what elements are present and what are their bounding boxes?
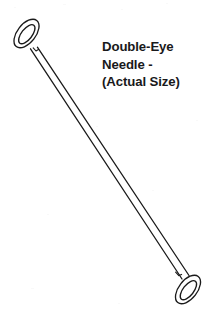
figure-caption: Double-Eye Needle - (Actual Size)	[102, 38, 208, 91]
caption-line-2: Needle -	[102, 56, 208, 74]
caption-line-3: (Actual Size)	[102, 73, 208, 91]
needle-figure: Double-Eye Needle - (Actual Size)	[0, 0, 214, 317]
caption-line-1: Double-Eye	[102, 38, 208, 56]
